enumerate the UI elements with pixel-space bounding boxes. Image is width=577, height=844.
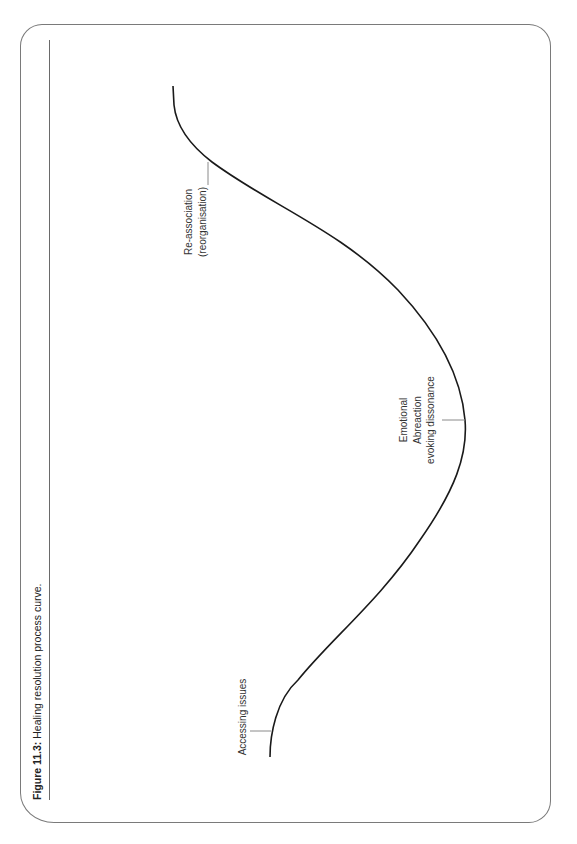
label-line: Accessing issues bbox=[236, 678, 250, 756]
label-line: Re-association bbox=[182, 182, 196, 262]
label-accessing-issues: Accessing issues bbox=[236, 678, 250, 756]
label-reassociation: Re-association (reorganisation) bbox=[182, 182, 209, 262]
label-emotional-abreaction: Emotional Abreaction evoking dissonance bbox=[397, 366, 438, 474]
label-line: (reorganisation) bbox=[196, 182, 210, 262]
label-line: evoking dissonance bbox=[424, 366, 438, 474]
healing-curve-diagram bbox=[0, 0, 577, 844]
label-line: Emotional bbox=[397, 366, 411, 474]
label-line: Abreaction bbox=[411, 366, 425, 474]
